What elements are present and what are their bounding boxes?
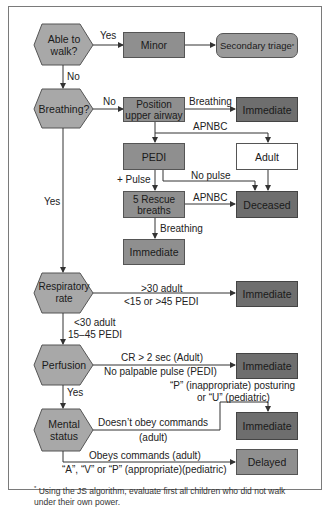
edge-label-posturing: “P” (inappropriate) posturing [170, 380, 295, 391]
edge-label-rescue-breathing: Breathing [160, 223, 203, 234]
box-position-upper-airway: Position upper airway [123, 97, 185, 122]
edge-label-walk-no: No [67, 71, 80, 82]
box-secondary-triage: Secondary triage* [216, 33, 298, 58]
box-immediate-2: Immediate [123, 239, 185, 265]
edge-label-rr-ok-adult: <30 adult [74, 317, 115, 328]
box-deceased: Deceased [236, 191, 298, 218]
edge-label-obey-adult: Obeys commands (adult) [89, 450, 201, 461]
edge-label-perf-adult: CR > 2 sec (Adult) [121, 352, 203, 363]
edge-label-breathing-no: No [103, 96, 116, 107]
decision-label: Respiratory rate [36, 281, 92, 305]
box-immediate-3: Immediate [236, 281, 298, 307]
footnote-text: Using the JS algorithm, evaluate first a… [34, 486, 285, 507]
edge-label-airway-breathing: Breathing [189, 96, 232, 107]
box-immediate-5: Immediate [236, 412, 298, 440]
edge-label-perf-yes: Yes [67, 387, 83, 398]
edge-label-rr-ok-pedi: 15–45 PEDI [68, 329, 122, 340]
box-minor: Minor [123, 32, 185, 58]
box-label: 5 Rescue breaths [127, 194, 181, 216]
box-label: Adult [255, 151, 279, 163]
edge-label-or-u: or “U” (pediatric) [197, 392, 270, 403]
box-label: Immediate [242, 360, 291, 372]
edge-label-perf-pedi: No palpable pulse (PEDI) [104, 366, 217, 377]
decision-label: Breathing? [39, 103, 90, 115]
decision-label: Mental status [44, 418, 84, 442]
edge-label-walk-yes: Yes [100, 30, 116, 41]
edge-label-obey-pedi: “A”, “V” or “P” (appropriate)(pediatric) [62, 464, 226, 475]
edge-label-rr-high-pedi: <15 or >45 PEDI [124, 296, 199, 307]
edge-label-breathing-yes: Yes [44, 196, 60, 207]
box-label: Position upper airway [125, 99, 183, 121]
box-adult: Adult [236, 143, 298, 170]
edge-label-no-obey-adult: (adult) [139, 432, 167, 443]
box-label: Immediate [242, 104, 291, 116]
decision-respiratory-rate: Respiratory rate [34, 274, 94, 312]
box-label: Minor [141, 39, 167, 51]
box-label: Delayed [248, 456, 287, 468]
decision-label: Perfusion [42, 359, 86, 371]
edge-label-no-obey: Doesn’t obey commands [98, 417, 208, 428]
footnote: * Using the JS algorithm, evaluate first… [34, 483, 294, 508]
box-immediate-1: Immediate [236, 97, 298, 122]
box-delayed: Delayed [236, 449, 298, 475]
edge-label-rr-high-adult: >30 adult [141, 283, 182, 294]
decision-breathing: Breathing? [34, 90, 94, 128]
edge-label-apnbc-2: APNBC [193, 192, 227, 203]
footnote-mark: * [292, 40, 294, 52]
box-label: Immediate [129, 246, 178, 258]
box-label: Immediate [242, 288, 291, 300]
edge-label-apnbc-1: APNBC [193, 121, 227, 132]
decision-mental-status: Mental status [34, 410, 94, 450]
box-label: PEDI [142, 151, 167, 163]
box-5-rescue-breaths: 5 Rescue breaths [123, 191, 185, 218]
decision-perfusion: Perfusion [34, 346, 94, 384]
box-label: Secondary triage [220, 40, 292, 52]
box-pedi: PEDI [123, 143, 185, 170]
decision-able-to-walk: Able to walk? [36, 26, 92, 64]
box-immediate-4: Immediate [236, 353, 298, 379]
decision-label: Able to walk? [44, 33, 84, 57]
footnote-mark: * [34, 485, 36, 491]
box-label: Immediate [242, 420, 291, 432]
edge-label-no-pulse: No pulse [191, 170, 230, 181]
edge-label-plus-pulse: + Pulse [117, 174, 151, 185]
box-label: Deceased [243, 199, 290, 211]
